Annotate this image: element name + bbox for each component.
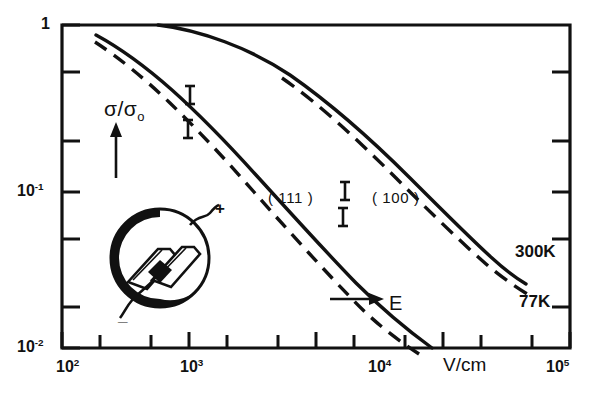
y-tick-label-1e-2-text: 10	[17, 338, 35, 355]
y-tick-label-1e-1-exp: -1	[35, 181, 44, 192]
x-tick-label-1e5-exp: 5	[564, 357, 570, 368]
x-tick-label-1e5-text: 10	[546, 358, 564, 375]
orientation-label-100: ( 100 )	[372, 190, 420, 205]
x-tick-label-1e4-text: 10	[368, 358, 386, 375]
y-tick-label-1-text: 1	[41, 15, 50, 32]
y-axis-arrow	[110, 122, 122, 178]
x-tick-label-1e5: 105	[546, 358, 569, 375]
y-axis-label: σ/σo	[104, 98, 145, 123]
x-tick-label-1e2: 102	[56, 358, 79, 375]
curve-300k-100	[158, 25, 526, 284]
y-axis-ticks-right	[552, 72, 570, 307]
error-bar	[338, 208, 348, 226]
error-bar	[340, 182, 350, 200]
x-tick-label-1e2-exp: 2	[74, 357, 80, 368]
x-tick-label-1e3: 103	[180, 358, 203, 375]
x-tick-label-1e4-exp: 4	[386, 357, 392, 368]
temperature-label-300k: 300K	[515, 243, 556, 260]
y-tick-label-1e-2: 10-2	[17, 338, 44, 355]
y-axis-label-text: σ/σ	[104, 97, 137, 120]
field-arrow-label: E	[389, 293, 402, 313]
y-axis-label-subscript: o	[137, 109, 145, 124]
inset-minus-label: _	[118, 307, 127, 324]
x-tick-label-1e2-text: 10	[56, 358, 74, 375]
y-tick-label-1e-2-exp: -2	[35, 337, 44, 348]
y-axis-ticks	[62, 25, 80, 348]
x-tick-label-1e3-exp: 3	[198, 357, 204, 368]
inset-plus-label: +	[215, 200, 225, 217]
curve-300k-111	[282, 78, 532, 297]
temperature-label-77k: 77K	[519, 293, 550, 310]
y-tick-label-1e-1-text: 10	[17, 182, 35, 199]
x-axis-unit-label: V/cm	[443, 355, 486, 374]
x-tick-label-1e3-text: 10	[180, 358, 198, 375]
x-axis-ticks	[62, 332, 570, 348]
sample-geometry-inset	[111, 205, 219, 318]
x-tick-label-1e4: 104	[368, 358, 391, 375]
y-tick-label-1: 1	[41, 16, 50, 32]
y-tick-label-1e-1: 10-1	[17, 182, 44, 199]
orientation-label-111: ( 111 )	[268, 190, 313, 205]
figure-container: σ/σo 1 10-1 10-2 102 103 104 105 V/cm ( …	[0, 0, 599, 407]
